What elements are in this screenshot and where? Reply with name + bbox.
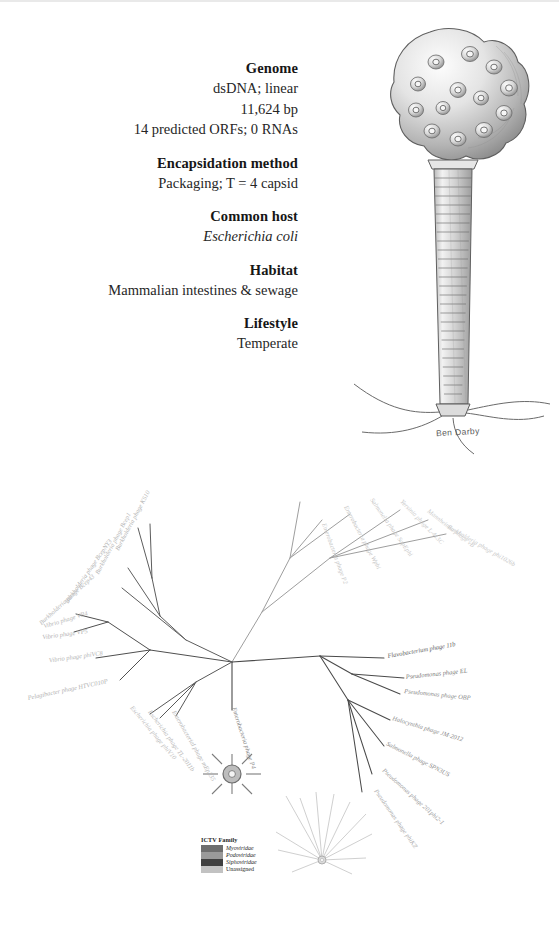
phage-tail-sheath	[434, 169, 472, 404]
tree-taxon-label: Enterobacteria phage Wphi	[343, 503, 383, 570]
factsheet-section-genome: Genome dsDNA; linear 11,624 bp 14 predic…	[8, 58, 298, 140]
legend-entry-label: Podoviridae	[226, 852, 256, 859]
factsheet-heading: Genome	[8, 58, 298, 78]
tree-legend: ICTV Family MyoviridaePodoviridaeSiphovi…	[201, 836, 279, 873]
factsheet-value: Temperate	[8, 333, 298, 354]
tree-taxon-labels: Burkholderia phage KS10Burkholderia phag…	[26, 488, 517, 849]
legend-entry: Unassigned	[201, 866, 279, 873]
legend-color-swatch	[201, 866, 223, 872]
phage-drawing-svg	[318, 12, 556, 462]
tree-taxon-label: Burkholderia phage Bcep1	[93, 511, 132, 575]
legend-entry-label: Siphoviridae	[226, 859, 257, 866]
tree-taxon-label: Burkholderia phage KS10	[113, 488, 151, 551]
tree-branches	[74, 502, 446, 792]
phage-capsid-head	[391, 29, 529, 160]
tree-taxon-label: Pseudomonas phage 201phi2-1	[381, 766, 446, 826]
factsheet-heading: Common host	[8, 206, 298, 226]
factsheet-value: 11,624 bp	[8, 99, 298, 120]
tree-taxon-label: Pseudomonas phage EL	[404, 667, 468, 681]
factsheet-value: Escherichia coli	[8, 226, 298, 247]
phage-factsheet: Genome dsDNA; linear 11,624 bp 14 predic…	[8, 58, 298, 367]
factsheet-heading: Lifestyle	[8, 313, 298, 333]
factsheet-value: Mammalian intestines & sewage	[8, 280, 298, 301]
tree-taxon-label: Salmonella phage SPN3US	[386, 740, 452, 778]
secondary-node-marker	[276, 792, 372, 874]
tree-taxon-label: Flavobacterium phage 11b	[386, 640, 456, 659]
factsheet-value: dsDNA; linear	[8, 78, 298, 99]
tree-taxon-label: Vibrio phage VP5	[42, 627, 88, 640]
factsheet-value: 14 predicted ORFs; 0 RNAs	[8, 119, 298, 140]
tree-taxon-label: Enterobacteria phage P4	[231, 705, 258, 770]
phage-baseplate	[436, 404, 470, 416]
tree-taxon-label: Enterobacteria phage P2	[321, 521, 350, 586]
legend-entry-label: Unassigned	[226, 866, 254, 873]
tree-svg: Burkholderia phage KS10Burkholderia phag…	[0, 462, 559, 927]
bacteriophage-illustration: Ben Darby	[318, 12, 556, 462]
factsheet-section-habitat: Habitat Mammalian intestines & sewage	[8, 260, 298, 301]
tree-taxon-label: Burkholderia phage phi1026b	[447, 523, 517, 568]
legend-entry: Podoviridae	[201, 852, 279, 859]
factsheet-section-common-host: Common host Escherichia coli	[8, 206, 298, 247]
tree-taxon-label: Vibrio phage phiVC8	[48, 649, 103, 664]
legend-color-swatch	[201, 859, 223, 865]
legend-entry: Siphoviridae	[201, 859, 279, 866]
tree-taxon-label: Pseudomonas phage OBP	[403, 687, 471, 701]
factsheet-heading: Encapsidation method	[8, 153, 298, 173]
legend-entry-label: Myoviridae	[226, 845, 254, 852]
factsheet-section-encapsidation: Encapsidation method Packaging; T = 4 ca…	[8, 153, 298, 194]
page-top-rule	[0, 0, 559, 2]
factsheet-heading: Habitat	[8, 260, 298, 280]
legend-title: ICTV Family	[201, 836, 279, 843]
legend-rows: MyoviridaePodoviridaeSiphoviridaeUnassig…	[201, 845, 279, 873]
phylogenetic-tree: Burkholderia phage KS10Burkholderia phag…	[0, 462, 559, 927]
legend-color-swatch	[201, 852, 223, 858]
tree-taxon-label: Halocynthia phage JM-2012	[391, 714, 465, 743]
legend-entry: Myoviridae	[201, 845, 279, 852]
phage-neck	[428, 160, 478, 169]
factsheet-section-lifestyle: Lifestyle Temperate	[8, 313, 298, 354]
legend-color-swatch	[201, 845, 223, 851]
tree-taxon-label: Pelagibacter phage HTVC010P	[26, 677, 108, 701]
factsheet-value: Packaging; T = 4 capsid	[8, 173, 298, 194]
